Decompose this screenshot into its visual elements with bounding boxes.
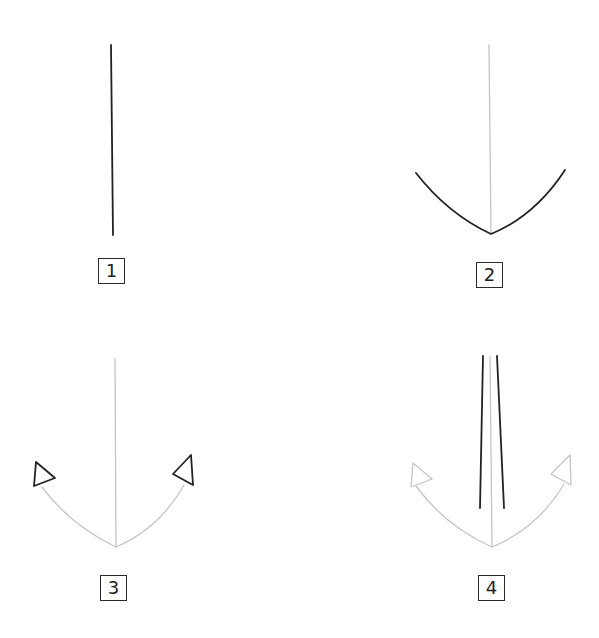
step-4-ink <box>480 356 504 508</box>
step-4-panel <box>411 356 571 547</box>
ink-line-stroke <box>497 356 504 508</box>
step-3-ink <box>34 455 193 486</box>
step-1-panel <box>111 45 113 235</box>
step-2-guides <box>489 45 491 234</box>
step-3-number-label: 3 <box>100 575 127 601</box>
guide-line-stroke <box>115 359 116 547</box>
ink-triangle-stroke <box>173 455 193 485</box>
step-2-panel <box>416 45 565 234</box>
step-2-number-label: 2 <box>476 262 503 288</box>
guide-triangle-stroke <box>551 455 571 485</box>
step-3-panel <box>34 359 193 547</box>
step-4-guides <box>411 357 571 547</box>
step-1-number-label: 1 <box>98 258 125 284</box>
step-4-number-label: 4 <box>478 575 505 601</box>
guide-line-stroke <box>489 45 491 234</box>
ink-line-stroke <box>480 356 483 508</box>
guide-curve-stroke <box>42 485 184 547</box>
step-3-guides <box>42 359 184 547</box>
guide-line-stroke <box>490 357 492 547</box>
ink-triangle-stroke <box>34 462 55 486</box>
guide-curve-stroke <box>416 484 564 547</box>
ink-line-stroke <box>111 45 113 235</box>
step-1-ink <box>111 45 113 235</box>
guide-triangle-stroke <box>411 463 432 487</box>
anchor-drawing-canvas <box>0 0 599 638</box>
